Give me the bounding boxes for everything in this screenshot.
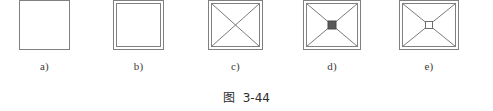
center-node-filled-icon: [328, 21, 336, 29]
panel-b-drawing: [113, 0, 164, 50]
figure-panel-e: e): [399, 0, 459, 82]
inner-square: [117, 4, 161, 47]
panel-e-drawing: [399, 0, 459, 50]
panel-d-drawing: [303, 0, 361, 50]
panel-b-label: b): [113, 60, 164, 72]
outer-square: [114, 1, 164, 50]
panel-a-svg: [19, 0, 70, 50]
panel-c-svg: [208, 0, 263, 50]
figure-panel-c: c): [208, 0, 263, 82]
panel-a-drawing: [19, 0, 70, 50]
panel-d-svg: [303, 0, 361, 50]
figure-panel-a: a): [19, 0, 70, 82]
panel-a-label: a): [19, 60, 70, 72]
figure-plate: a) b) c): [0, 0, 493, 111]
panel-e-svg: [399, 0, 459, 50]
panel-b-svg: [113, 0, 164, 50]
figure-panel-d: d): [303, 0, 361, 82]
panel-d-label: d): [303, 60, 361, 72]
outer-square: [20, 1, 70, 50]
center-node-hollow-icon: [426, 22, 433, 29]
panel-c-drawing: [208, 0, 263, 50]
figure-panel-b: b): [113, 0, 164, 82]
panel-e-label: e): [399, 60, 459, 72]
figure-caption: 图 3-44: [0, 88, 493, 105]
panel-c-label: c): [208, 60, 263, 72]
